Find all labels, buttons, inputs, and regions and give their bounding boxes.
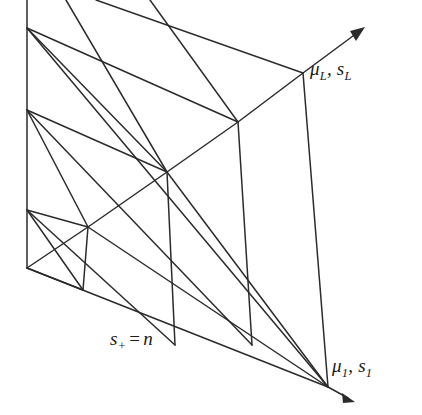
l4-to-m2-line xyxy=(27,227,88,268)
apex-to-v1-line xyxy=(238,73,303,122)
l1-to-corner-line xyxy=(27,28,328,387)
top-diagonal-a-line xyxy=(66,0,167,172)
mu-1-mu-glyph: μ xyxy=(332,355,342,376)
axis-label-mu-1: μ1, s1 xyxy=(332,355,372,381)
top-edge-line xyxy=(96,0,303,73)
v1-to-m3-line xyxy=(167,122,238,172)
constraint-label-s-plus: s+=n xyxy=(110,328,153,354)
axis-label-mu-L: μL, sL xyxy=(310,58,352,84)
simplex-line-drawing xyxy=(0,0,422,415)
s-L-subscript: L xyxy=(344,69,351,83)
axis-mu-1-arrowhead xyxy=(342,393,355,403)
s-plus-s-glyph: s xyxy=(110,328,118,349)
mu-L-mu-glyph: μ xyxy=(310,58,320,79)
mu-1-s-glyph: s xyxy=(358,355,366,376)
axis-mu-L-arrowhead xyxy=(350,27,365,41)
diagram-canvas: μL, sL μ1, s1 s+=n xyxy=(0,0,422,415)
l2-to-m3-line xyxy=(27,110,167,172)
l2-to-v2-line xyxy=(27,110,252,345)
n-glyph: n xyxy=(143,328,153,349)
m2-vertical-line xyxy=(83,227,88,290)
apex-right-edge-line xyxy=(303,73,328,387)
v1-vertical-line xyxy=(238,122,252,345)
l2-to-m2-line xyxy=(27,110,88,227)
mu-L-subscript: L xyxy=(320,69,327,83)
s-plus-subscript: + xyxy=(118,339,127,353)
s-1-subscript: 1 xyxy=(366,366,372,380)
equals-sign: = xyxy=(126,328,143,349)
mu-L-comma: , xyxy=(327,58,337,79)
mu-1-comma: , xyxy=(348,355,358,376)
l1-to-v1-line xyxy=(27,28,238,122)
top-diagonal-b-line xyxy=(150,0,238,122)
